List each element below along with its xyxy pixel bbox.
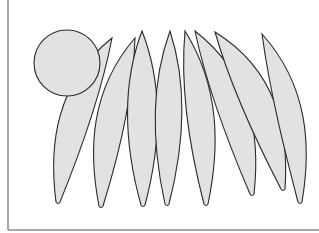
circle-shape xyxy=(34,30,100,96)
leaf-shape-4 xyxy=(155,31,182,206)
drawing-canvas xyxy=(0,0,319,233)
